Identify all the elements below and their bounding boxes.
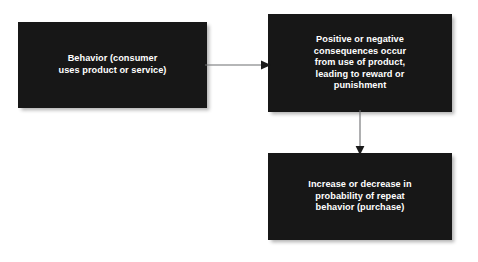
- flow-node-probability-label: Increase or decrease in probability of r…: [274, 179, 446, 214]
- arrow-consequences-to-probability-icon: [351, 110, 369, 155]
- flow-node-consequences-label: Positive or negative consequences occur …: [274, 34, 446, 92]
- flow-node-probability: Increase or decrease in probability of r…: [268, 153, 452, 240]
- arrow-behavior-to-consequences-icon: [205, 56, 271, 74]
- flow-node-behavior: Behavior (consumer uses product or servi…: [18, 22, 207, 108]
- flow-node-consequences: Positive or negative consequences occur …: [268, 14, 452, 112]
- diagram-canvas: Behavior (consumer uses product or servi…: [0, 0, 478, 262]
- flow-node-behavior-label: Behavior (consumer uses product or servi…: [24, 53, 201, 76]
